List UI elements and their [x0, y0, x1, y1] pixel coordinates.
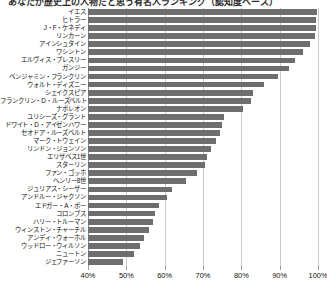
bar-label: ジェファーソン: [0, 258, 86, 266]
bar: [88, 41, 310, 47]
bar: [88, 154, 207, 160]
x-tick-label: 50%: [119, 271, 134, 280]
bar-label: ベンジャミン・フランクリン: [0, 73, 86, 81]
bar: [88, 49, 303, 55]
x-tick-90: [280, 266, 281, 270]
bar-label: アインシュタイン: [0, 40, 86, 48]
bar-label: ユリシーズ・グラント: [0, 113, 86, 121]
bar-label: ウッドロー・ウィルソン: [0, 242, 86, 250]
bar: [88, 211, 155, 217]
bar-row: アンドルー・ジャクソン: [0, 193, 323, 201]
bar-label: ハリー・トルーマン: [0, 218, 86, 226]
bar-row: ニュートン: [0, 250, 323, 258]
bar-row: ユリシーズ・グラント: [0, 113, 323, 121]
bar: [88, 74, 278, 80]
bar: [88, 235, 144, 241]
bar: [88, 243, 140, 249]
bar-rows: イエスヒトラーJ・F・ケネディリンカーンアインシュタインワシントンエルヴィス・プ…: [0, 8, 323, 266]
bar: [88, 162, 205, 168]
bar: [88, 227, 149, 233]
x-tick-label: 40%: [81, 271, 96, 280]
bar-label: シェイクスピア: [0, 89, 86, 97]
bar-row: フランクリン・D・ルーズベルト: [0, 97, 323, 105]
bar-row: マーク・トウェイン: [0, 137, 323, 145]
x-tick-label: 70%: [196, 271, 211, 280]
x-tick-40: [88, 266, 89, 270]
bar: [88, 66, 289, 72]
bar: [88, 114, 224, 120]
bar-row: アインシュタイン: [0, 40, 323, 48]
bar-row: セオドア・ルーズベルト: [0, 129, 323, 137]
bar-row: ヘンリー8世: [0, 177, 323, 185]
bar-label: ナポレオン: [0, 105, 86, 113]
bar: [88, 9, 317, 15]
bar-label: ヘンリー8世: [0, 177, 86, 185]
bar-row: イエス: [0, 8, 323, 16]
bar: [88, 130, 220, 136]
plot-area: イエスヒトラーJ・F・ケネディリンカーンアインシュタインワシントンエルヴィス・プ…: [0, 8, 323, 266]
bar: [88, 58, 295, 64]
x-tick-80: [241, 266, 242, 270]
bar: [88, 106, 243, 112]
bar-row: ハリー・トルーマン: [0, 218, 323, 226]
bar-label: ガンジー: [0, 64, 86, 72]
bar: [88, 25, 316, 31]
bar-label: イエス: [0, 8, 86, 16]
bar: [88, 219, 153, 225]
bar-row: ジュリアス・シーザー: [0, 185, 323, 193]
bar: [88, 98, 251, 104]
x-tick-label: 80%: [234, 271, 249, 280]
bar: [88, 146, 211, 152]
bar-label: ヒトラー: [0, 16, 86, 24]
bar-row: ガンジー: [0, 64, 323, 72]
x-tick-100: [318, 266, 319, 270]
bar-label: アンディ・ウォーホル: [0, 234, 86, 242]
bar-label: ドワイト・D・アイゼンハワー: [0, 121, 86, 129]
bar-row: シェイクスピア: [0, 89, 323, 97]
bar: [88, 33, 315, 39]
bar: [88, 90, 253, 96]
bar: [88, 82, 264, 88]
bar-label: ウォルト・ディズニー: [0, 81, 86, 89]
bar-label: マーク・トウェイン: [0, 137, 86, 145]
bar-row: ファン・ゴッホ: [0, 169, 323, 177]
bar-label: ウィンストン・チャーチル: [0, 226, 86, 234]
bar-row: アンディ・ウォーホル: [0, 234, 323, 242]
bar-row: エルヴィス・プレスリー: [0, 56, 323, 64]
bar: [88, 259, 123, 265]
bar: [88, 251, 134, 257]
bar-label: ジュリアス・シーザー: [0, 185, 86, 193]
bar: [88, 170, 197, 176]
bar-label: アンドルー・ジャクソン: [0, 193, 86, 201]
bar-label: フランクリン・D・ルーズベルト: [0, 97, 86, 105]
chart-title-strip: あなたが歴史上の人物だと思う有名人ランキング（認知度ベース）: [0, 0, 323, 7]
x-tick-60: [165, 266, 166, 270]
bar-label: リンドン・ジョンソン: [0, 145, 86, 153]
bar-label: J・F・ケネディ: [0, 24, 86, 32]
bar: [88, 17, 316, 23]
bar-row: リンドン・ジョンソン: [0, 145, 323, 153]
bar-row: コロンブス: [0, 210, 323, 218]
chart-title: あなたが歴史上の人物だと思う有名人ランキング（認知度ベース）: [8, 0, 278, 7]
x-tick-70: [203, 266, 204, 270]
bar-row: ウィンストン・チャーチル: [0, 226, 323, 234]
x-tick-50: [126, 266, 127, 270]
bar: [88, 178, 186, 184]
bar: [88, 122, 222, 128]
bar-row: エリザベス1世: [0, 153, 323, 161]
bar: [88, 138, 216, 144]
bar-row: J・F・ケネディ: [0, 24, 323, 32]
bar-row: ジェファーソン: [0, 258, 323, 266]
bar: [88, 187, 172, 193]
bar-label: コロンブス: [0, 210, 86, 218]
bar-label: セオドア・ルーズベルト: [0, 129, 86, 137]
bar-row: ウッドロー・ウィルソン: [0, 242, 323, 250]
bar-row: エドガー・A・ポー: [0, 202, 323, 210]
x-axis: 40%50%60%70%80%90%100%: [0, 266, 323, 293]
bar-label: ニュートン: [0, 250, 86, 258]
x-tick-label: 60%: [157, 271, 172, 280]
bar-row: ベンジャミン・フランクリン: [0, 73, 323, 81]
bar-label: エドガー・A・ポー: [0, 202, 86, 210]
x-tick-label: 90%: [272, 271, 287, 280]
